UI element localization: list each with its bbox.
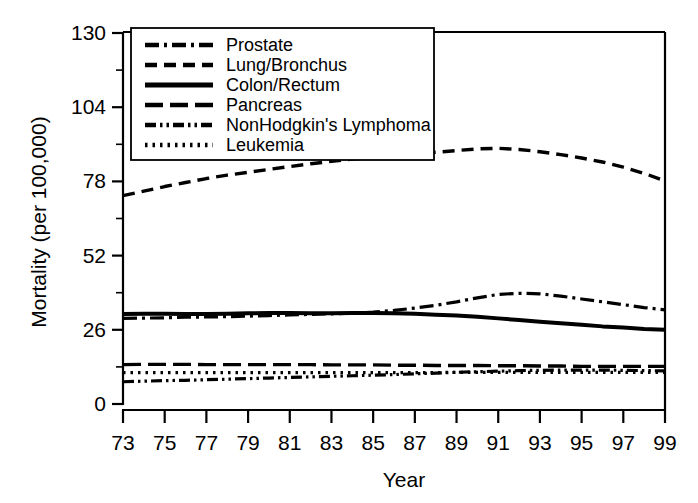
series-line-pancreas — [123, 364, 665, 366]
x-tick-label: 85 — [361, 431, 384, 454]
x-tick-label: 97 — [612, 431, 635, 454]
legend-label-prostate: Prostate — [226, 35, 293, 55]
y-axis-title: Mortality (per 100,000) — [27, 116, 50, 327]
chart-svg: 0265278104130 73757779818385878991939597… — [0, 0, 698, 503]
x-tick-label: 99 — [653, 431, 676, 454]
x-tick-label: 79 — [236, 431, 259, 454]
x-tick-label: 95 — [570, 431, 593, 454]
y-tick-label: 52 — [83, 244, 106, 267]
mortality-trends-chart: 0265278104130 73757779818385878991939597… — [0, 0, 698, 503]
legend-label-colon-rectum: Colon/Rectum — [226, 75, 340, 95]
x-tick-label: 77 — [195, 431, 218, 454]
y-tick-label: 104 — [71, 95, 106, 118]
legend-label-nonhodgkin-s-lymphoma: NonHodgkin's Lymphoma — [226, 115, 432, 135]
y-axis: 0265278104130 — [71, 21, 123, 415]
series-lines — [123, 148, 665, 381]
y-tick-label: 0 — [94, 392, 106, 415]
x-tick-label: 93 — [528, 431, 551, 454]
series-line-colon-rectum — [123, 313, 665, 330]
x-tick-label: 73 — [111, 431, 134, 454]
y-tick-label: 130 — [71, 21, 106, 44]
legend-label-leukemia: Leukemia — [226, 135, 305, 155]
x-axis-title: Year — [383, 468, 425, 491]
chart-legend: ProstateLung/BronchusColon/RectumPancrea… — [131, 28, 434, 160]
x-tick-label: 83 — [320, 431, 343, 454]
x-tick-label: 87 — [403, 431, 426, 454]
y-tick-label: 26 — [83, 318, 106, 341]
x-tick-label: 91 — [487, 431, 510, 454]
legend-label-lung-bronchus: Lung/Bronchus — [226, 55, 347, 75]
x-tick-label: 75 — [153, 431, 176, 454]
legend-label-pancreas: Pancreas — [226, 95, 302, 115]
x-tick-label: 89 — [445, 431, 468, 454]
y-tick-label: 78 — [83, 169, 106, 192]
x-tick-label: 81 — [278, 431, 301, 454]
